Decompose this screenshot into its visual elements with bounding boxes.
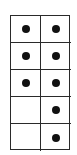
dot-icon — [22, 79, 30, 87]
dot-icon — [52, 25, 60, 33]
frame-cell — [41, 16, 71, 43]
frame-cell — [11, 124, 41, 151]
ten-frame-grid — [10, 15, 70, 150]
frame-cell — [11, 97, 41, 124]
frame-cell — [41, 70, 71, 97]
frame-cell — [41, 124, 71, 151]
frame-cell — [11, 16, 41, 43]
dot-icon — [22, 25, 30, 33]
dot-icon — [52, 52, 60, 60]
frame-cell — [11, 70, 41, 97]
dot-icon — [52, 134, 60, 142]
dot-icon — [52, 79, 60, 87]
frame-cell — [41, 43, 71, 70]
frame-cell — [11, 43, 41, 70]
dot-icon — [52, 106, 60, 114]
frame-cell — [41, 97, 71, 124]
dot-icon — [22, 52, 30, 60]
